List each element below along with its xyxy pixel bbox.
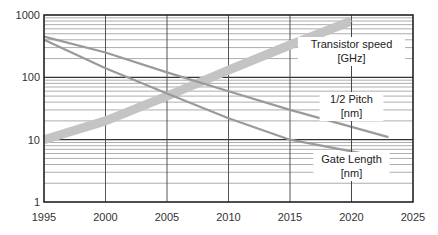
series-label-name: Gate Length <box>321 153 382 165</box>
series-label-unit: [nm] <box>341 167 362 179</box>
series-labels: Transistor speed[GHz]1/2 Pitch[nm]Gate L… <box>298 37 405 181</box>
series-label-unit: [nm] <box>341 107 362 119</box>
y-tick-label: 1000 <box>16 9 40 21</box>
x-tick-label: 2020 <box>339 211 363 223</box>
x-tick-label: 1995 <box>32 211 56 223</box>
y-axis-ticks: 1101001000 <box>16 9 40 208</box>
x-tick-label: 2010 <box>216 211 240 223</box>
series-label-name: 1/2 Pitch <box>330 93 373 105</box>
x-tick-label: 2005 <box>155 211 179 223</box>
series-label-name: Transistor speed <box>311 38 393 50</box>
y-tick-label: 1 <box>34 196 40 208</box>
x-tick-label: 2025 <box>401 211 425 223</box>
series-label-unit: [GHz] <box>337 52 365 64</box>
y-tick-label: 100 <box>22 71 40 83</box>
y-tick-label: 10 <box>28 134 40 146</box>
x-axis-ticks: 1995200020052010201520202025 <box>32 211 425 223</box>
x-tick-label: 2000 <box>93 211 117 223</box>
chart: 1101001000 1995200020052010201520202025 … <box>0 0 438 235</box>
x-tick-label: 2015 <box>278 211 302 223</box>
